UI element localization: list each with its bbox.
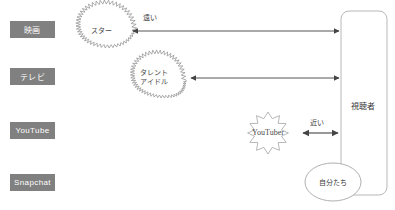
distance-label-far: 遠い	[143, 12, 157, 22]
self-circle-label: 自分たち	[312, 177, 354, 187]
audience-panel-label: 視聴者	[351, 100, 375, 111]
burst-star-shape	[76, 0, 137, 48]
distance-label-near: 近い	[310, 117, 324, 127]
burst-youtuber-shape	[248, 112, 289, 154]
burst-talent-idol-shape	[130, 50, 186, 98]
diagram-canvas: 映画 テレビ YouTube Snapchat	[0, 0, 395, 210]
